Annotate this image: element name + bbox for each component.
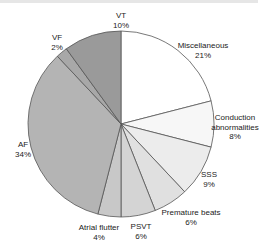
label-conduction-abnormalities: Conduction abnormalities 8% bbox=[211, 113, 259, 142]
label-af-pct: 34% bbox=[15, 150, 31, 160]
label-sss: SSS 9% bbox=[201, 170, 217, 189]
label-conduction-name2: abnormalities bbox=[211, 123, 259, 133]
label-vf: VF 2% bbox=[51, 33, 63, 52]
label-psvt: PSVT 6% bbox=[131, 222, 152, 241]
label-premature-name: Premature beats bbox=[161, 208, 220, 218]
label-psvt-pct: 6% bbox=[131, 232, 152, 242]
label-vt-name: VT bbox=[113, 11, 129, 21]
label-flutter-name: Atrial flutter bbox=[79, 223, 119, 233]
label-premature-pct: 6% bbox=[161, 218, 220, 228]
label-premature-beats: Premature beats 6% bbox=[161, 208, 220, 227]
label-sss-pct: 9% bbox=[201, 180, 217, 190]
label-misc-pct: 21% bbox=[178, 51, 229, 61]
label-vt: VT 10% bbox=[113, 11, 129, 30]
label-vt-pct: 10% bbox=[113, 21, 129, 31]
label-af: AF 34% bbox=[15, 140, 31, 159]
label-atrial-flutter: Atrial flutter 4% bbox=[79, 223, 119, 242]
label-af-name: AF bbox=[15, 140, 31, 150]
label-psvt-name: PSVT bbox=[131, 222, 152, 232]
label-miscellaneous: Miscellaneous 21% bbox=[178, 41, 229, 60]
label-conduction-name1: Conduction bbox=[211, 113, 259, 123]
label-vf-name: VF bbox=[51, 33, 63, 43]
label-flutter-pct: 4% bbox=[79, 233, 119, 243]
label-sss-name: SSS bbox=[201, 170, 217, 180]
label-conduction-pct: 8% bbox=[211, 132, 259, 142]
label-vf-pct: 2% bbox=[51, 43, 63, 53]
label-misc-name: Miscellaneous bbox=[178, 41, 229, 51]
